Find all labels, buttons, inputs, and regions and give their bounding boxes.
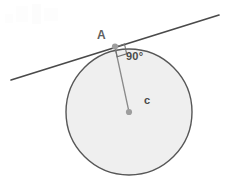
label-right-angle: 90°: [126, 50, 143, 62]
geometry-figure: A 90° c: [0, 0, 227, 184]
label-point-a: A: [97, 28, 106, 42]
geometry-canvas: [0, 0, 227, 184]
tangent-point-dot: [112, 43, 118, 49]
label-center-c: c: [144, 94, 150, 106]
center-point-dot: [126, 109, 132, 115]
scan-artifacts: [5, 4, 58, 24]
